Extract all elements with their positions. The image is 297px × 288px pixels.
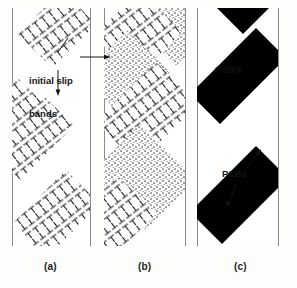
label-initial-slip-bands-line1: initial slip [29,75,73,86]
label-initial-slip-bands-line2: bands [29,108,73,119]
label-matrix: matrix [215,64,242,75]
label-initial-slip-bands: initial slip bands [29,53,73,141]
label-psbs: PSBs [222,168,247,179]
grain-boundary-b-left [104,8,105,246]
grain-boundary-a-right [90,8,91,246]
grain-boundary-c-left [197,8,198,246]
caption-panel-a: (a) [44,261,57,272]
caption-panel-b: (b) [138,261,151,272]
panel-b [104,8,185,246]
grain-boundary-b-right [185,8,186,246]
panel-c [197,8,278,246]
caption-panel-c: (c) [234,261,247,272]
figure-root: initial slip bands matrix PSBs (a) (b) (… [0,0,297,288]
grain-boundary-c-right [278,8,279,246]
grain-boundary-a-left [12,8,13,246]
